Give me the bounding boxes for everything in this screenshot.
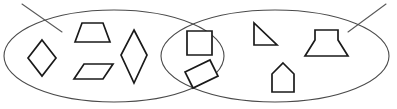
shape-podium-trapezoid[interactable]	[305, 30, 348, 56]
left-region-shapes	[28, 23, 147, 83]
shape-rhombus-diamond[interactable]	[28, 40, 56, 76]
shape-square[interactable]	[187, 31, 212, 55]
intersection-region-shapes	[185, 31, 218, 88]
shape-right-triangle[interactable]	[254, 23, 277, 45]
venn-diagram-canvas	[0, 0, 397, 109]
right-region-shapes	[254, 23, 348, 92]
shape-rectangle-tilted[interactable]	[185, 60, 218, 88]
shape-parallelogram[interactable]	[74, 64, 113, 79]
venn-diagram-svg	[0, 0, 397, 109]
shape-pentagon-house[interactable]	[272, 63, 294, 92]
shape-trapezoid-isosceles[interactable]	[75, 23, 110, 42]
slash-marks-group	[22, 4, 386, 32]
shape-kite-diamond-tall[interactable]	[121, 30, 147, 83]
top-right-slash-icon	[348, 4, 386, 32]
